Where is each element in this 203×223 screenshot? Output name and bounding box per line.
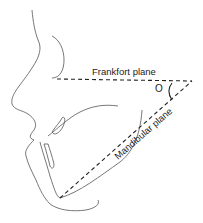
angle-label: O [155, 83, 163, 94]
lower-lip-outline [26, 140, 99, 211]
mandibular-plane-line [60, 81, 192, 198]
frankfort-plane-label: Frankfort plane [92, 66, 156, 77]
cephalometric-diagram: Frankfort plane O Mandibular plane [0, 0, 203, 223]
angle-arc [169, 83, 172, 100]
mandibular-plane-label: Mandibular plane [112, 105, 174, 161]
maxilla-outline [48, 105, 118, 136]
orbit-curve [52, 36, 64, 78]
lower-incisor-outline [44, 144, 54, 168]
facial-profile-outline [12, 10, 40, 140]
frankfort-plane-line [57, 79, 192, 81]
